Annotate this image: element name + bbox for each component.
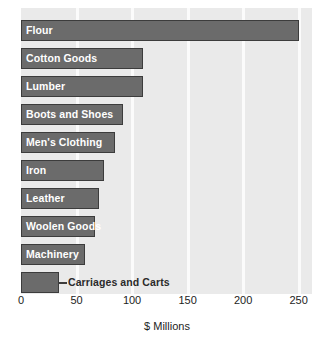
bar-row[interactable]: Iron: [21, 160, 312, 181]
bar-row[interactable]: Leather: [21, 188, 312, 209]
bar[interactable]: [21, 272, 59, 293]
x-tick-label: 100: [123, 294, 141, 306]
bar-label: Boots and Shoes: [26, 104, 113, 125]
x-tick-label: 200: [234, 294, 252, 306]
bar[interactable]: [21, 20, 299, 41]
bar-label: Woolen Goods: [26, 216, 101, 237]
bar-row[interactable]: Machinery: [21, 244, 312, 265]
bar-label: Men's Clothing: [26, 132, 102, 153]
bars-layer: FlourCotton GoodsLumberBoots and ShoesMe…: [21, 8, 312, 294]
bar-label: Lumber: [26, 76, 65, 97]
bar-row[interactable]: Carriages and Carts: [21, 272, 312, 293]
bar-label: Flour: [26, 20, 53, 41]
bar-row[interactable]: Woolen Goods: [21, 216, 312, 237]
x-tick-label: 50: [70, 294, 82, 306]
x-tick-label: 150: [178, 294, 196, 306]
bar-label: Iron: [26, 160, 46, 181]
bar-label: Carriages and Carts: [68, 272, 170, 293]
bar-label: Machinery: [26, 244, 79, 265]
bar-row[interactable]: Cotton Goods: [21, 48, 312, 69]
bar-row[interactable]: Lumber: [21, 76, 312, 97]
x-axis-title: $ Millions: [0, 320, 334, 332]
bar-row[interactable]: Flour: [21, 20, 312, 41]
x-tick-label: 250: [289, 294, 307, 306]
x-tick-label: 0: [18, 294, 24, 306]
bar-row[interactable]: Men's Clothing: [21, 132, 312, 153]
bar-label: Cotton Goods: [26, 48, 97, 69]
bar-label: Leather: [26, 188, 65, 209]
leader-line: [59, 282, 67, 284]
bar-chart-figure: FlourCotton GoodsLumberBoots and ShoesMe…: [0, 0, 334, 343]
bar-row[interactable]: Boots and Shoes: [21, 104, 312, 125]
x-axis: 050100150200250: [0, 294, 334, 314]
